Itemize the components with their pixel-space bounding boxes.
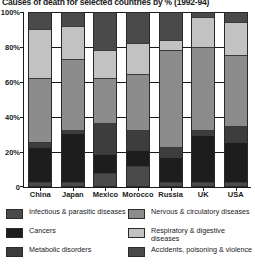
bar-segment xyxy=(160,158,182,182)
legend-label-respiratory: Respiratory & digestive diseases xyxy=(151,227,255,243)
gridline-tick xyxy=(52,12,61,13)
legend-item-respiratory[interactable]: Respiratory & digestive diseases xyxy=(128,227,255,241)
gridline-tick xyxy=(85,152,94,153)
bar-russia[interactable] xyxy=(159,12,183,187)
legend-label-infectious: Infectious & parasitic diseases xyxy=(29,208,126,216)
y-axis-tick-label: 40% xyxy=(5,113,20,122)
y-axis-tick xyxy=(20,117,24,118)
legend-item-infectious[interactable]: Infectious & parasitic diseases xyxy=(6,208,126,222)
y-axis-tick-label: 100% xyxy=(1,8,20,17)
bar-segment xyxy=(225,183,247,186)
bar-segment xyxy=(29,183,51,186)
legend-label-accidents: Accidents, poisoning & violence xyxy=(151,246,252,254)
legend-item-cancers[interactable]: Cancers xyxy=(6,227,126,241)
gridline-tick xyxy=(183,117,192,118)
bar-segment xyxy=(225,127,247,143)
bar-uk[interactable] xyxy=(191,12,215,187)
bar-segment xyxy=(160,183,182,186)
x-axis-labels: ChinaJapanMexicoMoroccoRussiaUKUSA xyxy=(23,190,251,202)
gridline-tick xyxy=(117,47,126,48)
y-axis-tick-label: 0 xyxy=(16,183,20,192)
y-axis-tick-label: 60% xyxy=(5,78,20,87)
bar-segment xyxy=(94,155,116,174)
bar-segment xyxy=(192,48,214,131)
gridline-tick xyxy=(150,117,159,118)
bar-segment xyxy=(62,134,84,182)
gridline-tick xyxy=(52,117,61,118)
bar-segment xyxy=(94,13,116,51)
gridline-tick xyxy=(183,82,192,83)
y-axis-tick xyxy=(20,186,24,187)
bar-segment xyxy=(62,183,84,186)
y-axis-tick xyxy=(20,47,24,48)
gridline-tick xyxy=(85,82,94,83)
bar-japan[interactable] xyxy=(61,12,85,187)
gridline-tick xyxy=(85,12,94,13)
legend-item-nervous[interactable]: Nervous & circulatory diseases xyxy=(128,208,255,222)
x-axis-line xyxy=(23,187,251,188)
x-axis-label-china: China xyxy=(30,190,51,199)
legend-swatch-cancers xyxy=(6,228,23,238)
bar-segment xyxy=(94,174,116,186)
bar-segment xyxy=(192,136,214,183)
gridline-tick xyxy=(52,152,61,153)
legend-swatch-accidents xyxy=(128,247,145,257)
bar-segment xyxy=(94,124,116,155)
legend-swatch-nervous xyxy=(128,209,145,219)
legend-item-metabolic[interactable]: Metabolic disorders xyxy=(6,246,126,260)
gridline-tick xyxy=(150,82,159,83)
gridline-tick xyxy=(215,82,224,83)
bar-morocco[interactable] xyxy=(126,12,150,187)
bar-segment xyxy=(127,44,149,75)
bar-segment xyxy=(225,23,247,56)
bar-segment xyxy=(29,30,51,78)
y-axis-tick-label: 80% xyxy=(5,43,20,52)
legend-swatch-metabolic xyxy=(6,247,23,257)
bar-group xyxy=(23,12,251,187)
y-axis-tick xyxy=(20,152,24,153)
bar-segment xyxy=(160,51,182,148)
gridline-tick xyxy=(183,152,192,153)
gridline-tick xyxy=(52,47,61,48)
legend-label-nervous: Nervous & circulatory diseases xyxy=(151,208,250,216)
gridline-tick xyxy=(150,47,159,48)
bar-china[interactable] xyxy=(28,12,52,187)
gridline-tick xyxy=(150,12,159,13)
bar-segment xyxy=(160,41,182,51)
legend-label-cancers: Cancers xyxy=(29,227,56,235)
y-axis-labels: 020%40%60%80%100% xyxy=(0,12,22,187)
bar-segment xyxy=(62,27,84,60)
bar-segment xyxy=(62,60,84,131)
x-axis-label-usa: USA xyxy=(228,190,244,199)
chart-page: Causes of death for selected countries b… xyxy=(0,0,255,264)
x-axis-label-uk: UK xyxy=(198,190,209,199)
bar-usa[interactable] xyxy=(224,12,248,187)
bar-segment xyxy=(62,13,84,27)
bar-mexico[interactable] xyxy=(93,12,117,187)
x-axis-label-morocco: Morocco xyxy=(122,190,153,199)
bar-segment xyxy=(29,148,51,183)
gridline-tick xyxy=(215,47,224,48)
gridline-tick xyxy=(215,117,224,118)
legend-column-right: Nervous & circulatory diseasesRespirator… xyxy=(128,208,255,264)
y-axis-tick xyxy=(20,82,24,83)
bar-segment xyxy=(127,75,149,130)
bar-segment xyxy=(127,151,149,167)
bar-segment xyxy=(127,131,149,152)
bar-segment xyxy=(94,51,116,79)
bar-segment xyxy=(127,167,149,186)
y-axis-tick-label: 20% xyxy=(5,148,20,157)
x-axis-label-russia: Russia xyxy=(158,190,183,199)
bar-segment xyxy=(225,56,247,127)
gridline-tick xyxy=(215,152,224,153)
bar-segment xyxy=(225,13,247,23)
legend-item-accidents[interactable]: Accidents, poisoning & violence xyxy=(128,246,255,260)
gridline-tick xyxy=(117,152,126,153)
plot-area: 020%40%60%80%100% ChinaJapanMexicoMorocc… xyxy=(0,12,255,200)
gridline-tick xyxy=(117,117,126,118)
legend-swatch-respiratory xyxy=(128,228,145,238)
legend-swatch-infectious xyxy=(6,209,23,219)
bar-segment xyxy=(29,79,51,143)
bar-segment xyxy=(29,13,51,30)
gridline-tick xyxy=(85,47,94,48)
